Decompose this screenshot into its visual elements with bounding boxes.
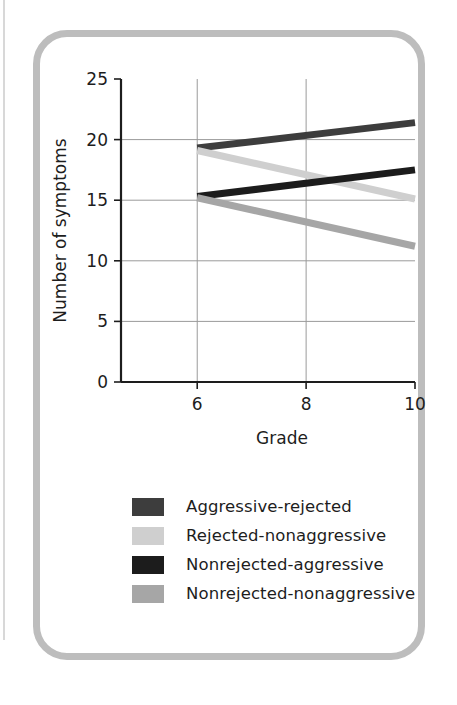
y-axis-title: Number of symptoms [50, 138, 70, 322]
line-chart: 0510152025 6810 Number of symptoms Grade [40, 37, 432, 457]
y-tick-label: 5 [97, 311, 108, 331]
chart-legend: Aggressive-rejected Rejected-nonaggressi… [132, 492, 432, 608]
scan-edge-artifact [3, 0, 5, 640]
legend-swatch-nonrejected-aggressive [132, 556, 164, 574]
x-tick-label: 8 [301, 394, 312, 414]
list-item: Nonrejected-aggressive [132, 550, 432, 579]
y-tick-label: 15 [86, 190, 108, 210]
figure-card: 0510152025 6810 Number of symptoms Grade… [33, 30, 425, 660]
y-tick-label: 25 [86, 69, 108, 89]
list-item: Nonrejected-nonaggressive [132, 579, 432, 608]
legend-swatch-nonrejected-nonaggressive [132, 585, 164, 603]
x-tick-label: 10 [404, 394, 426, 414]
legend-label: Rejected-nonaggressive [186, 526, 386, 545]
y-tick-label: 20 [86, 130, 108, 150]
legend-label: Aggressive-rejected [186, 497, 352, 516]
x-tick-label: 6 [192, 394, 203, 414]
legend-swatch-aggressive-rejected [132, 498, 164, 516]
legend-label: Nonrejected-aggressive [186, 555, 384, 574]
list-item: Aggressive-rejected [132, 492, 432, 521]
legend-swatch-rejected-nonaggressive [132, 527, 164, 545]
x-axis-title: Grade [256, 428, 308, 448]
chart-canvas: 0510152025 6810 Number of symptoms Grade [40, 37, 432, 457]
legend-label: Nonrejected-nonaggressive [186, 584, 415, 603]
list-item: Rejected-nonaggressive [132, 521, 432, 550]
y-tick-label: 10 [86, 251, 108, 271]
x-tick-labels: 6810 [192, 394, 426, 414]
y-tick-labels: 0510152025 [86, 69, 108, 392]
y-tick-label: 0 [97, 372, 108, 392]
